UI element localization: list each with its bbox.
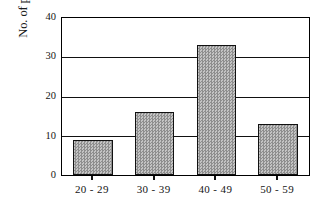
- bar-chart: No. of participants 40 30 20 10 0 20 - 2…: [0, 0, 330, 209]
- x-tick-mark-3: [276, 176, 278, 180]
- x-tick-mark-2: [214, 176, 216, 180]
- y-tick-label-0: 0: [34, 170, 56, 180]
- x-tick-mark-0: [91, 176, 93, 180]
- bar-50-59: [258, 124, 298, 175]
- x-tick-label-2: 40 - 49: [180, 182, 250, 196]
- y-axis-tick-labels: 40 30 20 10 0: [30, 0, 56, 209]
- bar-40-49: [197, 45, 237, 175]
- y-tick-label-30: 30: [34, 51, 56, 61]
- bar-series: [62, 18, 309, 175]
- x-tick-label-0: 20 - 29: [57, 182, 127, 196]
- plot-area: [61, 17, 310, 176]
- y-tick-label-20: 20: [34, 91, 56, 101]
- x-tick-label-1: 30 - 39: [119, 182, 189, 196]
- y-tick-label-40: 40: [34, 12, 56, 22]
- bar-20-29: [73, 140, 113, 175]
- x-tick-mark-1: [153, 176, 155, 180]
- y-tick-label-10: 10: [34, 131, 56, 141]
- x-tick-label-3: 50 - 59: [242, 182, 312, 196]
- bar-30-39: [135, 112, 175, 175]
